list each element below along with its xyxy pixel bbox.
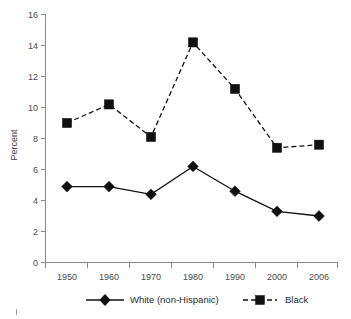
legend-item-white[interactable]: White (non-Hispanic) — [86, 294, 219, 306]
chart-legend: White (non-Hispanic) Black — [86, 294, 308, 306]
data-point-square[interactable] — [62, 118, 71, 127]
y-axis-title: Percent — [9, 129, 19, 161]
chart-figure: Percent 16 14 12 10 — [0, 0, 351, 319]
x-tick-1980: 1980 — [172, 263, 204, 283]
series-white — [62, 161, 325, 221]
legend-label-white: White (non-Hispanic) — [130, 294, 219, 305]
legend-label-black: Black — [285, 294, 308, 305]
series-line — [67, 42, 319, 147]
y-tick-label: 12 — [28, 72, 38, 82]
data-point-diamond[interactable] — [272, 206, 283, 217]
data-point-diamond[interactable] — [188, 161, 199, 172]
y-tick-label: 8 — [33, 134, 38, 144]
data-point-square[interactable] — [146, 132, 155, 141]
data-point-square[interactable] — [230, 84, 239, 93]
x-tick-label: 2000 — [267, 272, 287, 282]
y-tick-16: 16 — [28, 10, 46, 20]
x-tick-label: 1980 — [183, 272, 203, 282]
y-axis-ticks: 16 14 12 10 8 6 — [28, 10, 46, 268]
data-point-diamond[interactable] — [62, 181, 73, 192]
y-tick-10: 10 — [28, 103, 46, 113]
y-tick-label: 10 — [28, 103, 38, 113]
y-tick-label: 6 — [33, 165, 38, 175]
y-tick-4: 4 — [33, 196, 46, 206]
square-icon — [256, 296, 265, 305]
x-tick-label: 1970 — [141, 272, 161, 282]
y-tick-0: 0 — [33, 258, 46, 268]
x-tick-label: 1950 — [57, 272, 77, 282]
data-point-diamond[interactable] — [314, 211, 325, 222]
data-point-square[interactable] — [272, 143, 281, 152]
y-tick-8: 8 — [33, 134, 46, 144]
diamond-icon — [100, 294, 111, 305]
x-tick-1960: 1960 — [88, 263, 120, 283]
series-line — [67, 166, 319, 216]
data-point-diamond[interactable] — [104, 181, 115, 192]
data-point-diamond[interactable] — [146, 189, 157, 200]
x-tick-2000: 2000 — [256, 263, 288, 283]
y-tick-label: 2 — [33, 227, 38, 237]
x-tick-1970: 1970 — [130, 263, 162, 283]
y-tick-label: 4 — [33, 196, 38, 206]
x-tick-label: 1960 — [99, 272, 119, 282]
y-tick-label: 14 — [28, 41, 38, 51]
x-tick-2006: 2006 — [298, 263, 330, 283]
corner-artifact-mark — [16, 309, 17, 315]
line-chart: Percent 16 14 12 10 — [0, 0, 351, 319]
y-tick-14: 14 — [28, 41, 46, 51]
y-tick-12: 12 — [28, 72, 46, 82]
y-tick-6: 6 — [33, 165, 46, 175]
data-point-diamond[interactable] — [230, 186, 241, 197]
series-layer — [62, 38, 325, 222]
data-point-square[interactable] — [104, 100, 113, 109]
legend-item-black[interactable]: Black — [243, 294, 308, 305]
y-tick-label: 0 — [33, 258, 38, 268]
x-tick-label: 2006 — [309, 272, 329, 282]
x-axis-ticks: 1950 1960 1970 1980 1990 2000 — [46, 263, 338, 283]
series-black — [62, 38, 323, 153]
x-tick-1990: 1990 — [214, 263, 246, 283]
x-tick-1950: 1950 — [46, 263, 78, 283]
y-tick-2: 2 — [33, 227, 46, 237]
y-tick-label: 16 — [28, 10, 38, 20]
x-tick-label: 1990 — [225, 272, 245, 282]
data-point-square[interactable] — [188, 38, 197, 47]
data-point-square[interactable] — [314, 140, 323, 149]
